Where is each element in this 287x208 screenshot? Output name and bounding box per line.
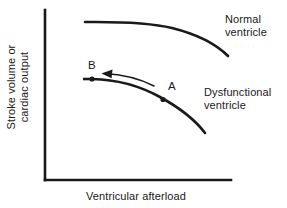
dysfunctional-ventricle-curve [92,79,205,133]
a-to-b-arrow-head [102,70,113,79]
y-axis-label: Stroke volume or cardiac output [5,31,30,143]
point-a-marker [160,97,165,102]
y-axis-label-container: Stroke volume or cardiac output [5,31,35,143]
x-axis-label: Ventricular afterload [86,190,186,203]
normal-ventricle-curve [85,22,228,56]
dysfunctional-ventricle-label: Dysfunctional ventricle [204,86,271,111]
point-a-label: A [168,80,176,93]
point-b-label: B [88,59,96,72]
ventricular-function-curve-figure: Normal ventricle Dysfunctional ventricle… [0,0,287,208]
normal-ventricle-label: Normal ventricle [225,13,267,38]
point-b-marker [89,76,94,81]
